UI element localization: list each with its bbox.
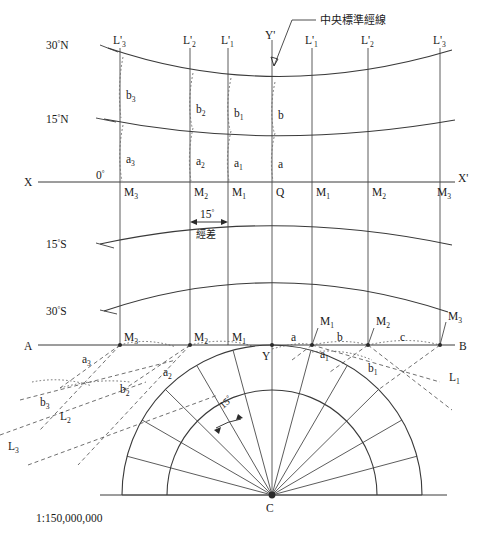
cone-chord-label-c: c [400,331,405,343]
latitude-label-30n: 30°N [46,39,69,51]
cone-generatrix-label-l3: L3 [8,440,19,455]
cone-foot-label-m3-right: M3 [448,310,462,325]
cone-foot-label-m3-left: M3 [124,331,138,346]
meridian-top-label-2: L'1 [221,34,234,49]
offset-label-b1: b1 [234,107,244,122]
conic-projection-diagram: 中央標準經線 30°N 15°N 0° 15°S 30°S X X' L'3 L… [0,0,487,537]
latitude-labels: 30°N 15°N 0° 15°S 30°S [46,39,105,317]
cone-foot-label-m1-left: M1 [232,331,246,346]
central-meridian-label: 中央標準經線 [320,13,386,27]
longitude-interval-value: 15° [200,208,215,220]
cone-generatrix-label-l2: L2 [60,410,71,425]
offset-label-b3: b3 [126,89,136,104]
cone-left-offset-labels: a3 a2 b3 b2 [40,353,172,411]
cone-chord-label-b: b [337,331,343,343]
meridian-foot-label-2: M1 [232,186,246,201]
meridian-foot-label-5: M2 [372,186,386,201]
longitude-interval-caption: 經差 [196,228,216,240]
cone-offset-label-a3: a3 [82,353,91,368]
cone-offset-label-a2: a2 [163,366,172,381]
meridian-top-label-1: L'2 [183,34,196,49]
meridian-top-label-3: Y' [265,29,275,41]
offset-label-a: a [278,158,283,170]
offset-label-b: b [278,109,284,121]
offset-label-a1: a1 [234,157,243,172]
cone-offset-label-b1: b1 [368,362,378,377]
cone-angle-indicator [214,414,243,434]
offset-labels-upper: b3 b2 b1 b [126,89,284,122]
cone-offset-label-a1: a1 [320,348,329,363]
cone-foot-label-m2-right: M2 [376,315,390,330]
offset-label-a2: a2 [196,155,205,170]
cone-label-y: Y [262,350,271,362]
cone-right-offset-labels: a1 b1 [320,348,378,377]
meridian-top-label-6: L'3 [433,34,446,49]
meridian-foot-label-0: M3 [124,186,138,201]
meridian-top-labels: L'3 L'2 L'1 Y' L'1 L'2 L'3 [113,29,446,49]
parallel-arcs [100,48,455,312]
cone-chord-label-a: a [291,331,296,343]
meridian-top-label-5: L'2 [361,34,374,49]
axis-label-x: X [24,176,33,188]
cone-panel: A B Y C [0,310,467,514]
scale-label: 1:150,000,000 [36,512,103,525]
cone-generatrix-label-l1: L1 [449,371,460,386]
cone-offset-label-b2: b2 [120,383,130,398]
cone-apex-point [269,492,276,499]
offset-labels-lower: a3 a2 a1 a [126,153,283,172]
cone-label-b: B [459,340,467,352]
cone-offset-label-b3: b3 [40,396,50,411]
latitude-label-15s: 15°S [46,238,67,250]
cone-apex-label: C [266,502,274,514]
meridian-top-label-4: L'1 [305,34,318,49]
meridian-foot-label-3: Q [276,186,285,198]
meridian-foot-label-6: M3 [437,186,451,201]
meridian-foot-labels: M3 M2 M1 Q M1 M2 M3 [124,186,451,201]
graticule-panel: 中央標準經線 30°N 15°N 0° 15°S 30°S X X' L'3 L… [24,13,468,345]
cone-foot-label-m1-right: M1 [320,315,334,330]
latitude-label-0: 0° [96,169,105,181]
latitude-label-15n: 15°N [46,113,69,125]
cone-foot-label-m2-left: M2 [194,331,208,346]
latitude-label-30s: 30°S [46,305,67,317]
meridian-foot-label-4: M1 [316,186,330,201]
cone-angle-value: 15° [217,394,234,411]
meridian-foot-label-1: M2 [194,186,208,201]
offset-label-a3: a3 [126,153,135,168]
cone-label-a: A [24,340,33,352]
offset-label-b2: b2 [196,103,206,118]
axis-label-x-prime: X' [458,172,468,184]
meridian-top-label-0: L'3 [113,34,126,49]
